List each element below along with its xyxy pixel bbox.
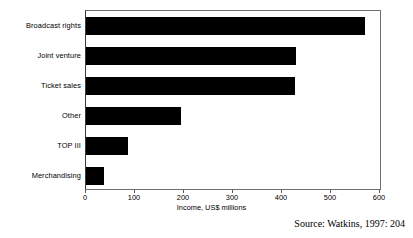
x-tick-label: 100 xyxy=(119,193,149,202)
x-tick-label: 0 xyxy=(70,193,100,202)
x-axis: 0100200300400500600 xyxy=(0,190,413,204)
category-label: Joint venture xyxy=(0,52,81,60)
bar-chart-figure: Broadcast rightsJoint ventureTicket sale… xyxy=(0,0,413,238)
category-label: TOP III xyxy=(0,142,81,150)
bar xyxy=(86,107,181,125)
x-tick-label: 300 xyxy=(217,193,247,202)
category-label: Ticket sales xyxy=(0,82,81,90)
source-note: Source: Watkins, 1997: 204 xyxy=(294,218,405,230)
bar xyxy=(86,17,365,35)
x-tick-label: 200 xyxy=(168,193,198,202)
bar xyxy=(86,47,296,65)
x-axis-title: Income, US$ millions xyxy=(0,203,413,213)
x-tick-label: 600 xyxy=(364,193,394,202)
x-tick-label: 500 xyxy=(315,193,345,202)
bar xyxy=(86,167,104,185)
category-axis: Broadcast rightsJoint ventureTicket sale… xyxy=(0,10,81,190)
category-label: Broadcast rights xyxy=(0,22,81,30)
bar xyxy=(86,77,295,95)
x-tick-label: 400 xyxy=(266,193,296,202)
bars-layer xyxy=(86,10,380,190)
category-label: Other xyxy=(0,112,81,120)
category-label: Merchandising xyxy=(0,172,81,180)
bar xyxy=(86,137,128,155)
